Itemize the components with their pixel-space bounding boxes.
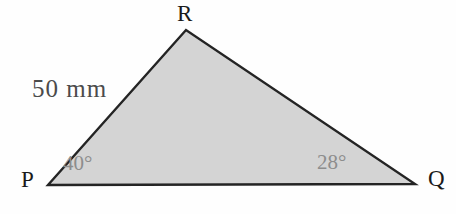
angle-label-at-p: 40° (63, 153, 92, 174)
side-length-label-pr: 50 mm (32, 76, 107, 101)
vertex-label-p: P (21, 168, 34, 191)
angle-label-at-q: 28° (317, 152, 346, 173)
triangle-shape-svg (0, 0, 456, 214)
triangle-pqr-shape (48, 30, 415, 185)
vertex-label-r: R (177, 2, 192, 25)
triangle-diagram-figure: P Q R 50 mm 40° 28° (0, 0, 456, 214)
vertex-label-q: Q (428, 167, 445, 190)
